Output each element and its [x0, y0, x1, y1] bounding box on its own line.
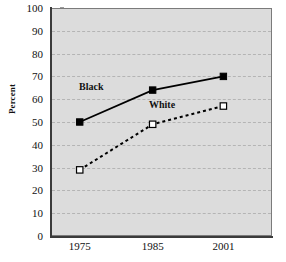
gridline [52, 31, 271, 32]
y-tick-label: 70 [32, 71, 43, 82]
y-tick-label: 10 [32, 208, 43, 219]
x-tick-label: 2001 [212, 240, 234, 252]
y-tick-label: 40 [32, 139, 43, 150]
y-tick-label: 80 [32, 48, 43, 59]
gridline [52, 145, 271, 146]
gridline [52, 213, 271, 214]
y-tick-label: 90 [32, 25, 43, 36]
gridline [52, 76, 271, 77]
y-tick-label: 100 [27, 3, 44, 14]
chart-figure: Percent 1009080706050403020100 Black Whi… [0, 0, 286, 262]
y-tick-label: 30 [32, 162, 43, 173]
gridline [52, 54, 271, 55]
x-tick-label: 1975 [69, 240, 91, 252]
gridline [52, 190, 271, 191]
x-axis-spine [50, 236, 273, 238]
gridline [52, 122, 271, 123]
plot-area [51, 8, 272, 236]
series-label-black: Black [79, 81, 103, 92]
y-axis-spine [50, 7, 52, 238]
y-tick-label: 60 [32, 94, 43, 105]
y-axis-tick-labels: 1009080706050403020100 [13, 8, 47, 236]
y-tick-label: 50 [32, 117, 43, 128]
x-tick-label: 1985 [142, 240, 164, 252]
series-label-white: White [149, 99, 175, 110]
y-tick-label: 20 [32, 185, 43, 196]
gridlines [52, 9, 271, 235]
x-axis-tick-labels: 197519852001 [0, 240, 286, 260]
gridline [52, 168, 271, 169]
